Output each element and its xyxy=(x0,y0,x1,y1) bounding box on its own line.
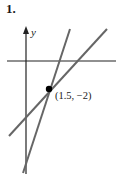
steep-line xyxy=(23,29,70,173)
point-label: (1.5, −2) xyxy=(55,90,92,102)
graph: y (1.5, −2) xyxy=(0,0,116,183)
shallow-line xyxy=(9,29,107,136)
y-axis-label: y xyxy=(30,26,36,38)
intersection-point xyxy=(46,86,52,92)
y-axis-arrow-icon xyxy=(23,26,29,34)
